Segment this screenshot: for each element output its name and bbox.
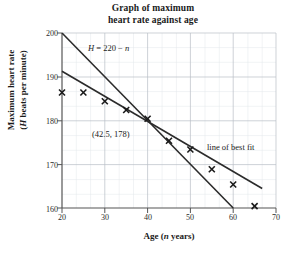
equation-annotation: H = 220 − n (88, 43, 129, 53)
plot-area (0, 0, 297, 258)
line-of-best-fit-annotation: line of best fit (207, 142, 254, 152)
data-point-marker (209, 166, 215, 172)
axis-ticks (57, 33, 276, 213)
equation-body: = 220 − (94, 43, 125, 53)
intersection-point-annotation: (42.5, 178) (92, 129, 130, 139)
chart-figure: Graph of maximum heart rate against age … (0, 0, 297, 258)
data-point-marker (80, 90, 86, 96)
equation-variable-n: n (125, 43, 129, 53)
major-gridlines (62, 33, 276, 208)
